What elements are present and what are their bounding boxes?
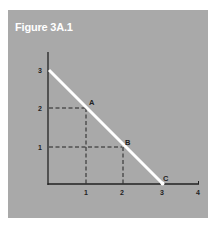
data-line xyxy=(49,70,163,184)
y-tick-3: 3 xyxy=(38,67,42,74)
y-tick-1: 1 xyxy=(38,144,42,151)
x-tick-2: 2 xyxy=(120,189,124,196)
point-b-label: B xyxy=(125,138,131,147)
x-tick-4: 4 xyxy=(196,189,200,196)
x-tick-1: 1 xyxy=(84,189,88,196)
guide-lines xyxy=(49,108,123,184)
chart-plot: 3 2 1 1 2 3 4 A B C xyxy=(0,0,220,226)
point-a-label: A xyxy=(89,98,95,107)
x-tick-3: 3 xyxy=(160,189,164,196)
point-c-label: C xyxy=(163,174,169,183)
y-tick-2: 2 xyxy=(38,105,42,112)
